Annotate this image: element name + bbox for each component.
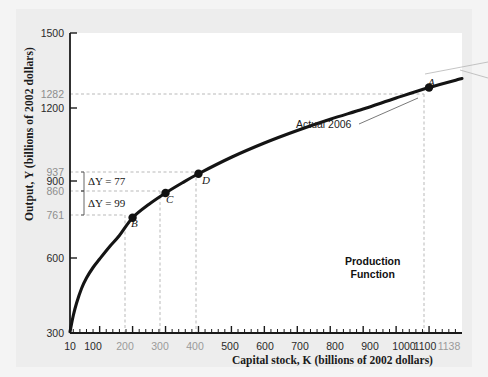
production-function-line-1: Production [345,255,400,267]
x-tick-label-300: 300 [140,340,180,352]
x-tick-label-200: 200 [105,340,145,352]
y-tick-label-300: 300 [22,327,64,339]
y-tick-label-761: 761 [22,209,64,221]
actual-2006-label: Actual 2006 [296,118,351,130]
delta-y-77-label: ΔY = 77 [88,175,125,187]
production-function-label: Production Function [345,255,400,281]
data-point-markers [128,83,433,222]
margin-pointer-line [425,62,488,74]
delta-y-99-label: ΔY = 99 [88,197,125,209]
margin-pointer-line-2 [460,70,488,78]
guide-lines [70,94,424,333]
point-label-c: C [166,193,173,205]
delta-brackets [81,172,84,215]
y-tick-label-1282: 1282 [22,88,64,100]
y-tick-label-600: 600 [22,252,64,264]
y-axis-ticks [70,33,77,333]
y-tick-label-860: 860 [22,185,64,197]
production-function-curve [70,79,462,332]
x-tick-label-600: 600 [245,340,285,352]
axes [70,33,462,333]
point-label-d: D [202,174,210,186]
x-axis-ticks [73,326,455,333]
y-tick-label-1500: 1500 [22,27,64,39]
point-label-b: B [131,217,138,229]
x-tick-label-1138: 1138 [429,340,469,352]
bracket-77 [81,172,84,191]
x-tick-label-400: 400 [175,340,215,352]
point-label-a: A [428,76,435,88]
x-axis-title: Capital stock, K (billions of 2002 dolla… [232,354,433,366]
y-tick-label-1200: 1200 [22,102,64,114]
x-tick-label-800: 800 [315,340,355,352]
production-function-line-2: Function [351,268,395,280]
x-tick-label-500: 500 [210,340,250,352]
chart-canvas [0,0,488,377]
bracket-99 [81,191,84,215]
production-function-figure: Output, Y (billions of 2002 dollars) Cap… [0,0,488,377]
x-tick-label-700: 700 [280,340,320,352]
